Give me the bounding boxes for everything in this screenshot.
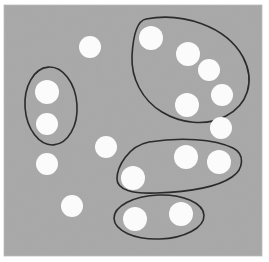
data-point[interactable] bbox=[176, 42, 200, 66]
data-point[interactable] bbox=[95, 136, 117, 158]
data-point[interactable] bbox=[207, 150, 231, 174]
data-point[interactable] bbox=[169, 202, 193, 226]
data-point[interactable] bbox=[139, 26, 163, 50]
data-point[interactable] bbox=[121, 166, 145, 190]
data-point[interactable] bbox=[35, 80, 59, 104]
data-point[interactable] bbox=[36, 113, 58, 135]
data-point[interactable] bbox=[36, 153, 58, 175]
data-point[interactable] bbox=[79, 36, 101, 58]
data-point[interactable] bbox=[175, 93, 199, 117]
data-point[interactable] bbox=[123, 207, 147, 231]
data-point[interactable] bbox=[198, 59, 220, 81]
data-point[interactable] bbox=[61, 195, 83, 217]
data-point[interactable] bbox=[210, 117, 232, 139]
cluster-canvas bbox=[0, 0, 269, 262]
data-point[interactable] bbox=[174, 145, 198, 169]
data-point[interactable] bbox=[211, 84, 233, 106]
cluster-figure bbox=[0, 0, 269, 262]
